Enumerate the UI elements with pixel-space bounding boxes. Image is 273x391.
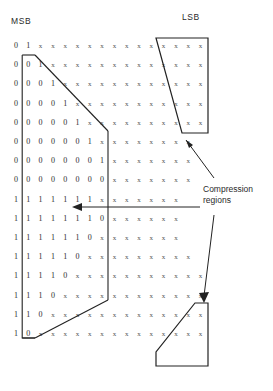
bit-cell-r3-c13: x <box>158 78 170 90</box>
bit-cell-r1-c11: x <box>133 40 145 52</box>
bit-cell-r10-c2: 1 <box>22 213 34 225</box>
bit-cell-r11-c6: 1 <box>72 232 84 244</box>
bit-cell-r16-c8: x <box>96 328 108 340</box>
bit-cell-r4-c6: x <box>72 98 84 110</box>
bit-cell-r6-c12: x <box>145 136 157 148</box>
bit-cell-r9-c5: 1 <box>59 194 71 206</box>
bit-cell-r1-c10: x <box>121 40 133 52</box>
bit-cell-r1-c6: x <box>72 40 84 52</box>
bit-cell-r1-c12: x <box>145 40 157 52</box>
bit-cell-r5-c7: x <box>84 117 96 129</box>
bit-cell-r8-c14: x <box>170 174 182 186</box>
bit-cell-r10-c13: x <box>158 213 170 225</box>
bit-cell-r7-c6: 0 <box>72 155 84 167</box>
bit-cell-r10-c3: 1 <box>35 213 47 225</box>
bit-cell-r9-c13: x <box>158 194 170 206</box>
bit-cell-r13-c13: x <box>158 270 170 282</box>
bit-cell-r13-c5: 0 <box>59 270 71 282</box>
bit-cell-r9-c3: 1 <box>35 194 47 206</box>
bit-cell-r2-c3: 1 <box>35 59 47 71</box>
bit-cell-r4-c3: 0 <box>35 98 47 110</box>
bit-cell-r4-c5: 1 <box>59 98 71 110</box>
bit-cell-r14-c2: 1 <box>22 290 34 302</box>
bit-cell-r3-c8: x <box>96 78 108 90</box>
bit-cell-r14-c5: x <box>59 290 71 302</box>
bit-cell-r6-c11: x <box>133 136 145 148</box>
bit-cell-r14-c6: x <box>72 290 84 302</box>
bit-cell-r7-c11: x <box>133 155 145 167</box>
bit-cell-r14-c7: x <box>84 290 96 302</box>
bit-cell-r7-c13: x <box>158 155 170 167</box>
bit-cell-r14-c9: x <box>108 290 120 302</box>
bit-cell-r8-c4: 0 <box>47 174 59 186</box>
bit-cell-r5-c14: x <box>170 117 182 129</box>
bit-cell-r5-c10: x <box>121 117 133 129</box>
bit-cell-r11-c12: x <box>145 232 157 244</box>
bit-cell-r12-c14: x <box>170 251 182 263</box>
bit-cell-r13-c14: x <box>170 270 182 282</box>
bit-cell-r16-c13: x <box>158 328 170 340</box>
bit-cell-r16-c6: x <box>72 328 84 340</box>
bit-cell-r6-c4: 0 <box>47 136 59 148</box>
bit-cell-r8-c11: x <box>133 174 145 186</box>
bit-cell-r1-c8: x <box>96 40 108 52</box>
bit-cell-r16-c14: x <box>170 328 182 340</box>
bit-cell-r8-c7: 0 <box>84 174 96 186</box>
bit-cell-r3-c11: x <box>133 78 145 90</box>
bit-cell-r2-c15: x <box>182 59 194 71</box>
bit-cell-r15-c10: x <box>121 309 133 321</box>
bit-cell-r16-c11: x <box>133 328 145 340</box>
bit-cell-r15-c4: x <box>47 309 59 321</box>
bit-cell-r10-c12: x <box>145 213 157 225</box>
bit-cell-r4-c16: x <box>195 98 207 110</box>
bit-cell-r10-c7: 1 <box>84 213 96 225</box>
bit-cell-r10-c6: 1 <box>72 213 84 225</box>
bit-cell-r10-c1: 1 <box>10 213 22 225</box>
bit-cell-r16-c7: x <box>84 328 96 340</box>
bit-cell-r5-c15: x <box>182 117 194 129</box>
bit-cell-r5-c5: 0 <box>59 117 71 129</box>
bit-cell-r6-c14: x <box>170 136 182 148</box>
bit-cell-r15-c12: x <box>145 309 157 321</box>
bit-cell-r2-c9: x <box>108 59 120 71</box>
bit-cell-r15-c13: x <box>158 309 170 321</box>
bit-cell-r14-c14: x <box>170 290 182 302</box>
bit-cell-r8-c1: 0 <box>10 174 22 186</box>
bit-cell-r4-c4: 0 <box>47 98 59 110</box>
bit-cell-r5-c12: x <box>145 117 157 129</box>
bit-cell-r6-c6: 0 <box>72 136 84 148</box>
bit-cell-r14-c15: x <box>182 290 194 302</box>
bit-cell-r6-c10: x <box>121 136 133 148</box>
bit-cell-r7-c15: x <box>182 155 194 167</box>
bit-cell-r2-c7: x <box>84 59 96 71</box>
bit-cell-r9-c14: x <box>170 194 182 206</box>
bit-cell-r10-c9: x <box>108 213 120 225</box>
bit-cell-r12-c11: x <box>133 251 145 263</box>
bit-cell-r3-c9: x <box>108 78 120 90</box>
bit-cell-r4-c1: 0 <box>10 98 22 110</box>
bit-cell-r2-c6: x <box>72 59 84 71</box>
bit-cell-r7-c8: 1 <box>96 155 108 167</box>
bit-cell-r13-c2: 1 <box>22 270 34 282</box>
bit-cell-r7-c3: 0 <box>35 155 47 167</box>
bit-cell-r6-c8: x <box>96 136 108 148</box>
bit-cell-r2-c1: 0 <box>10 59 22 71</box>
bit-cell-r10-c5: 1 <box>59 213 71 225</box>
bit-cell-r15-c16: x <box>195 309 207 321</box>
bit-cell-r5-c6: 1 <box>72 117 84 129</box>
bit-cell-r2-c4: x <box>47 59 59 71</box>
bit-cell-r14-c10: x <box>121 290 133 302</box>
bit-cell-r7-c12: x <box>145 155 157 167</box>
bit-cell-r7-c4: 0 <box>47 155 59 167</box>
bit-cell-r8-c10: x <box>121 174 133 186</box>
bit-cell-r12-c4: 1 <box>47 251 59 263</box>
bit-cell-r2-c10: x <box>121 59 133 71</box>
bit-cell-r8-c12: x <box>145 174 157 186</box>
bit-cell-r13-c16: x <box>195 270 207 282</box>
bit-cell-r15-c2: 1 <box>22 309 34 321</box>
bit-cell-r10-c8: 0 <box>96 213 108 225</box>
bit-cell-r11-c7: 0 <box>84 232 96 244</box>
bit-cell-r1-c13: x <box>158 40 170 52</box>
bit-cell-r7-c7: 0 <box>84 155 96 167</box>
bit-cell-r3-c2: 0 <box>22 78 34 90</box>
